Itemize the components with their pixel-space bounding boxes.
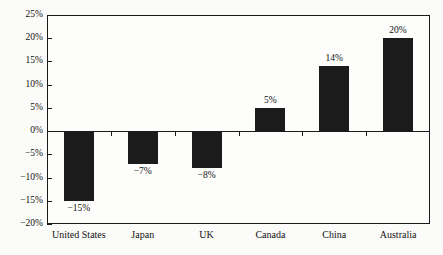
bar-value-label: −8% bbox=[177, 171, 237, 181]
x-axis-tick-label: Australia bbox=[353, 230, 443, 240]
x-axis-tick-mark bbox=[239, 131, 240, 136]
bar-value-label: 14% bbox=[304, 54, 364, 64]
y-axis-tick-mark bbox=[47, 61, 52, 62]
bar-value-label: 20% bbox=[368, 26, 428, 36]
bar-value-label: −7% bbox=[113, 167, 173, 177]
y-axis-tick-mark bbox=[47, 224, 52, 225]
bar bbox=[383, 38, 413, 131]
bar bbox=[128, 131, 158, 164]
y-axis-tick-label: −5% bbox=[3, 149, 43, 159]
y-axis-tick-mark bbox=[47, 154, 52, 155]
y-axis-tick-label: 5% bbox=[3, 103, 43, 113]
y-axis-tick-mark bbox=[47, 38, 52, 39]
y-axis-tick-label: 25% bbox=[3, 10, 43, 20]
y-axis-tick-label: 0% bbox=[3, 126, 43, 136]
bar bbox=[192, 131, 222, 168]
bar bbox=[319, 66, 349, 131]
y-axis-tick-mark bbox=[47, 85, 52, 86]
bar-chart: 25%20%15%10%5%0%−5%−10%−15%−20% −15%−7%−… bbox=[0, 0, 443, 255]
bar-value-label: 5% bbox=[240, 96, 300, 106]
bar-value-label: −15% bbox=[49, 204, 109, 214]
y-axis-tick-label: −10% bbox=[3, 173, 43, 183]
x-axis-tick-mark bbox=[302, 131, 303, 136]
x-axis-tick-mark bbox=[366, 131, 367, 136]
y-axis-tick-label: −20% bbox=[3, 219, 43, 229]
bar bbox=[255, 108, 285, 131]
y-axis-tick-mark bbox=[47, 178, 52, 179]
y-axis-tick-mark bbox=[47, 201, 52, 202]
y-axis-tick-label: 15% bbox=[3, 56, 43, 66]
y-axis-tick-label: −15% bbox=[3, 196, 43, 206]
y-axis-tick-label: 10% bbox=[3, 80, 43, 90]
plot-area bbox=[47, 15, 430, 224]
y-axis-tick-mark bbox=[47, 108, 52, 109]
x-axis-tick-mark bbox=[111, 131, 112, 136]
y-axis-tick-label: 20% bbox=[3, 33, 43, 43]
x-axis-tick-mark bbox=[175, 131, 176, 136]
bar bbox=[64, 131, 94, 201]
